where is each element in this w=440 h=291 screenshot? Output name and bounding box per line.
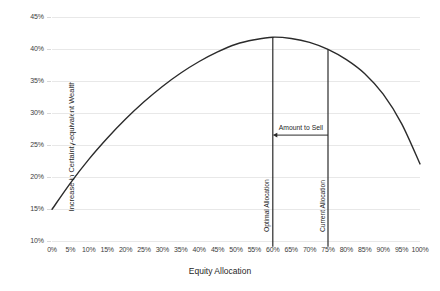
y-tick-mark xyxy=(47,241,51,242)
y-tick-label: 35% xyxy=(18,77,44,84)
y-tick-mark xyxy=(47,145,51,146)
x-tick-label: 100% xyxy=(408,246,432,253)
marker-caption-current-allocation: Current Allocation xyxy=(319,180,326,232)
y-tick-label: 15% xyxy=(18,205,44,212)
y-tick-label: 20% xyxy=(18,173,44,180)
amount-to-sell-label: Amount to Sell xyxy=(279,124,323,131)
gridline xyxy=(52,113,420,114)
y-tick-label: 25% xyxy=(18,141,44,148)
y-tick-label: 30% xyxy=(18,109,44,116)
gridline xyxy=(52,209,420,210)
gridline xyxy=(52,177,420,178)
gridline xyxy=(52,241,420,242)
y-tick-mark xyxy=(47,209,51,210)
y-tick-label: 10% xyxy=(18,237,44,244)
y-tick-mark xyxy=(47,49,51,50)
chart-container: Increase in Certainty-equivalent Wealth … xyxy=(0,0,440,291)
gridline xyxy=(52,17,420,18)
y-tick-mark xyxy=(47,113,51,114)
y-tick-mark xyxy=(47,17,51,18)
x-axis-title: Equity Allocation xyxy=(0,266,440,276)
y-tick-label: 40% xyxy=(18,45,44,52)
gridline xyxy=(52,49,420,50)
y-tick-mark xyxy=(47,81,51,82)
y-tick-label: 45% xyxy=(18,13,44,20)
gridline xyxy=(52,145,420,146)
plot-area xyxy=(52,17,420,241)
y-tick-mark xyxy=(47,177,51,178)
marker-caption-optimal-allocation: Optimal Allocation xyxy=(263,179,270,232)
gridline xyxy=(52,81,420,82)
